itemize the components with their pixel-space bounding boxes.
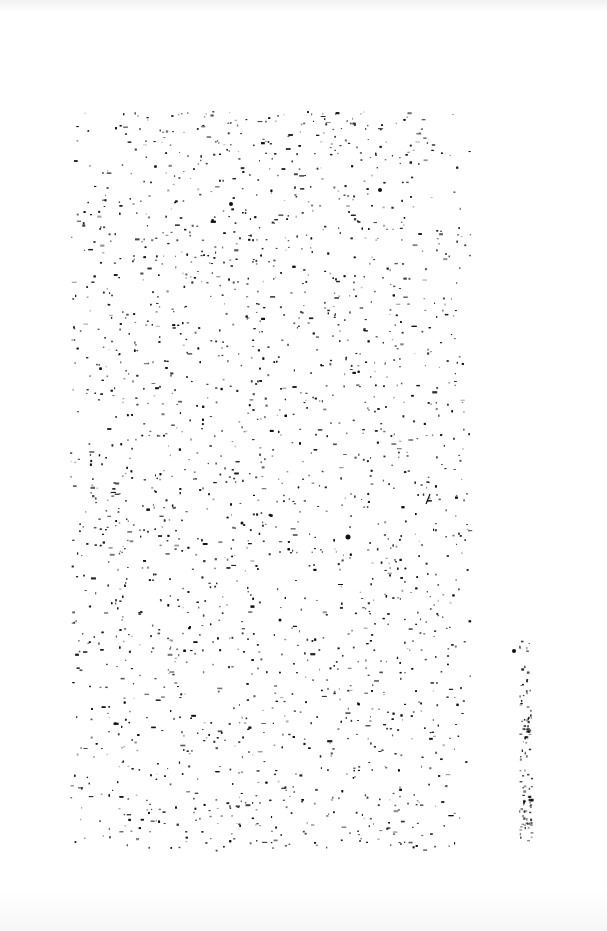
scan-bottom-edge — [0, 891, 607, 931]
speckle-noise — [0, 0, 607, 931]
scanned-page — [0, 0, 607, 931]
